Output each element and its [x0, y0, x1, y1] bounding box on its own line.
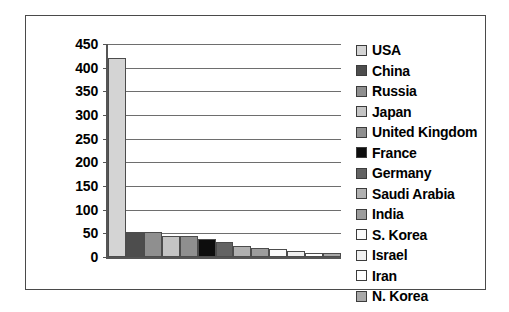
legend-swatch-icon: [356, 209, 367, 220]
plot-wrapper: 450400350300250200150100500: [66, 44, 341, 276]
chart-legend: USAChinaRussiaJapanUnited KingdomFranceG…: [356, 40, 482, 307]
bar: [233, 246, 251, 257]
y-tickmark: [103, 44, 108, 45]
y-tickmark: [103, 115, 108, 116]
legend-swatch-icon: [356, 229, 367, 240]
legend-swatch-icon: [356, 250, 367, 261]
legend-item-label: Japan: [372, 104, 411, 120]
legend-item[interactable]: S. Korea: [356, 225, 482, 246]
y-tickmark: [103, 233, 108, 234]
y-tickmark: [103, 162, 108, 163]
legend-swatch-icon: [356, 106, 367, 117]
legend-item-label: USA: [372, 42, 401, 58]
legend-swatch-icon: [356, 86, 367, 97]
legend-item-label: Germany: [372, 165, 431, 181]
y-tickmark: [103, 91, 108, 92]
legend-swatch-icon: [356, 65, 367, 76]
bar: [251, 248, 269, 257]
y-tickmark: [103, 210, 108, 211]
y-axis: 450400350300250200150100500: [66, 44, 104, 257]
y-tick-label: 50: [83, 225, 98, 241]
legend-item[interactable]: France: [356, 143, 482, 164]
legend-item[interactable]: United Kingdom: [356, 122, 482, 143]
legend-swatch-icon: [356, 270, 367, 281]
y-tick-label: 150: [75, 178, 98, 194]
bar: [198, 239, 216, 257]
legend-item-label: India: [372, 206, 404, 222]
legend-swatch-icon: [356, 45, 367, 56]
y-tickmark: [103, 186, 108, 187]
legend-item[interactable]: Iran: [356, 266, 482, 287]
bar: [305, 253, 323, 257]
legend-item-label: Russia: [372, 83, 417, 99]
legend-item[interactable]: Japan: [356, 102, 482, 123]
chart-frame: 450400350300250200150100500 USAChinaRuss…: [25, 15, 486, 290]
bar: [126, 232, 144, 257]
legend-item[interactable]: Russia: [356, 81, 482, 102]
legend-item[interactable]: China: [356, 61, 482, 82]
legend-item-label: Israel: [372, 247, 407, 263]
bar: [323, 253, 341, 257]
y-tick-label: 300: [75, 107, 98, 123]
plot-area: [106, 44, 341, 259]
y-tick-label: 0: [90, 249, 98, 265]
legend-swatch-icon: [356, 291, 367, 302]
legend-item[interactable]: Saudi Arabia: [356, 184, 482, 205]
legend-item[interactable]: USA: [356, 40, 482, 61]
y-tick-label: 200: [75, 154, 98, 170]
legend-item-label: N. Korea: [372, 288, 428, 304]
y-tick-label: 450: [75, 36, 98, 52]
bar: [287, 251, 305, 257]
legend-item-label: Saudi Arabia: [372, 186, 455, 202]
legend-item[interactable]: Israel: [356, 245, 482, 266]
legend-swatch-icon: [356, 147, 367, 158]
legend-item-label: United Kingdom: [372, 124, 477, 140]
y-tick-label: 250: [75, 131, 98, 147]
bar: [108, 58, 126, 257]
legend-item-label: Iran: [372, 268, 397, 284]
bar: [180, 236, 198, 257]
y-tickmark: [103, 139, 108, 140]
legend-item-label: China: [372, 63, 410, 79]
legend-item-label: France: [372, 145, 417, 161]
legend-item[interactable]: India: [356, 204, 482, 225]
bar: [216, 242, 234, 257]
legend-item-label: S. Korea: [372, 227, 427, 243]
y-tick-label: 350: [75, 83, 98, 99]
bar: [162, 236, 180, 257]
legend-item[interactable]: Germany: [356, 163, 482, 184]
y-tick-label: 100: [75, 202, 98, 218]
legend-swatch-icon: [356, 168, 367, 179]
bar-series: [108, 44, 341, 257]
bar: [144, 232, 162, 257]
legend-item[interactable]: N. Korea: [356, 286, 482, 307]
y-tick-label: 400: [75, 60, 98, 76]
legend-swatch-icon: [356, 188, 367, 199]
y-tickmark: [103, 257, 108, 258]
bar: [269, 249, 287, 257]
y-tickmark: [103, 68, 108, 69]
legend-swatch-icon: [356, 127, 367, 138]
